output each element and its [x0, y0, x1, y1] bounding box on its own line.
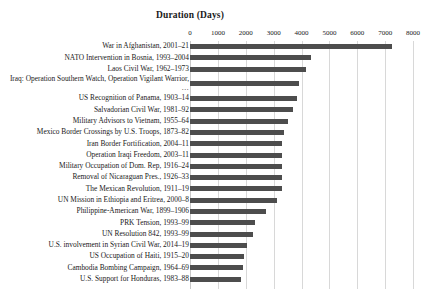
- category-label: NATO Intervention in Bosnia, 1993–2004: [3, 54, 189, 62]
- bar-track: [190, 115, 413, 126]
- chart-row: PRK Tension, 1993–99: [0, 217, 437, 228]
- bar[interactable]: [190, 175, 282, 180]
- bar[interactable]: [190, 198, 277, 203]
- category-label: Mexico Border Crossings by U.S. Troops, …: [3, 128, 189, 136]
- bar[interactable]: [190, 55, 311, 60]
- bar[interactable]: [190, 96, 297, 101]
- category-label: The Mexican Revolution, 1911–19: [3, 185, 189, 193]
- bar[interactable]: [190, 119, 288, 124]
- chart-title: Duration (Days): [0, 10, 380, 21]
- chart-row: Cambodia Bombing Campaign, 1964–69: [0, 262, 437, 273]
- bar-track: [190, 161, 413, 172]
- category-label: U.S. involvement in Syrian Civil War, 20…: [3, 241, 189, 249]
- category-label: PRK Tension, 1993–99: [3, 219, 189, 227]
- chart-row: U.S. Support for Honduras, 1983–88: [0, 274, 437, 285]
- bar-track: [190, 172, 413, 183]
- category-label: US Occupation of Haiti, 1915–20: [3, 252, 189, 260]
- chart-row: UN Mission in Ethiopia and Eritrea, 2000…: [0, 195, 437, 206]
- category-label: Operation Iraqi Freedom, 2003–11: [3, 151, 189, 159]
- chart-row: Removal of Nicaraguan Pres., 1926–33: [0, 172, 437, 183]
- category-label: Military Advisors to Vietnam, 1955–64: [3, 117, 189, 125]
- category-label: Military Occupation of Dom. Rep, 1916–24: [3, 162, 189, 170]
- bar-track: [190, 274, 413, 285]
- bar[interactable]: [190, 67, 306, 72]
- chart-row: U.S. involvement in Syrian Civil War, 20…: [0, 240, 437, 251]
- chart-row: Military Occupation of Dom. Rep, 1916–24: [0, 161, 437, 172]
- category-label: War in Afghanistan, 2001–21: [3, 42, 189, 50]
- bar-track: [190, 206, 413, 217]
- bar[interactable]: [190, 81, 299, 86]
- category-label: Iraq: Operation Southern Watch, Operatio…: [3, 75, 189, 92]
- chart-row: UN Resolution 842, 1993–99: [0, 228, 437, 239]
- bar-track: [190, 228, 413, 239]
- x-tick-label-7000: 7000: [378, 28, 392, 38]
- category-label: Salvadorian Civil War, 1981–92: [3, 106, 189, 114]
- bar[interactable]: [190, 277, 241, 282]
- chart-row: Laos Civil War, 1962–1973: [0, 64, 437, 75]
- chart-row: Mexico Border Crossings by U.S. Troops, …: [0, 127, 437, 138]
- x-tick-label-6000: 6000: [350, 28, 364, 38]
- bar-track: [190, 64, 413, 75]
- category-label: Laos Civil War, 1962–1973: [3, 65, 189, 73]
- x-tick-label-3000: 3000: [267, 28, 281, 38]
- x-tick-label-2000: 2000: [239, 28, 253, 38]
- bar[interactable]: [190, 232, 253, 237]
- bar[interactable]: [190, 220, 255, 225]
- bar-track: [190, 149, 413, 160]
- category-label: Cambodia Bombing Campaign, 1964–69: [3, 264, 189, 272]
- bar[interactable]: [190, 44, 392, 49]
- category-label: UN Mission in Ethiopia and Eritrea, 2000…: [3, 196, 189, 204]
- chart-row: Salvadorian Civil War, 1981–92: [0, 104, 437, 115]
- bar-track: [190, 104, 413, 115]
- bar[interactable]: [190, 209, 266, 214]
- category-label: Removal of Nicaraguan Pres., 1926–33: [3, 173, 189, 181]
- category-label: UN Resolution 842, 1993–99: [3, 230, 189, 238]
- bar[interactable]: [190, 141, 282, 146]
- x-tick-label-1000: 1000: [211, 28, 225, 38]
- chart-row: Iraq: Operation Southern Watch, Operatio…: [0, 75, 437, 93]
- x-tick-label-5000: 5000: [322, 28, 336, 38]
- bar[interactable]: [190, 153, 282, 158]
- category-label: Philippine-American War, 1899–1906: [3, 207, 189, 215]
- bar[interactable]: [190, 186, 282, 191]
- chart-row: US Occupation of Haiti, 1915–20: [0, 251, 437, 262]
- x-axis-tick-labels: 010002000300040005000600070008000: [0, 28, 437, 40]
- bar-track: [190, 183, 413, 194]
- chart-row: Operation Iraqi Freedom, 2003–11: [0, 149, 437, 160]
- bar-rows: War in Afghanistan, 2001–21NATO Interven…: [0, 41, 437, 285]
- bar[interactable]: [190, 164, 282, 169]
- bar-track: [190, 217, 413, 228]
- chart-row: Iran Border Fortification, 2004–11: [0, 138, 437, 149]
- bar[interactable]: [190, 107, 293, 112]
- bar-track: [190, 127, 413, 138]
- category-label: Iran Border Fortification, 2004–11: [3, 140, 189, 148]
- bar[interactable]: [190, 130, 284, 135]
- bar-track: [190, 52, 413, 63]
- chart-row: Philippine-American War, 1899–1906: [0, 206, 437, 217]
- chart-row: War in Afghanistan, 2001–21: [0, 41, 437, 52]
- bar-chart: Duration (Days) 010002000300040005000600…: [0, 0, 437, 297]
- x-tick-label-8000: 8000: [406, 28, 420, 38]
- chart-row: Military Advisors to Vietnam, 1955–64: [0, 115, 437, 126]
- bar-track: [190, 262, 413, 273]
- chart-row: US Recognition of Panama, 1903–14: [0, 93, 437, 104]
- chart-row: NATO Intervention in Bosnia, 1993–2004: [0, 52, 437, 63]
- bar-track: [190, 93, 413, 104]
- bar-track: [190, 138, 413, 149]
- bar[interactable]: [190, 243, 247, 248]
- bar-track: [190, 41, 413, 52]
- category-label: US Recognition of Panama, 1903–14: [3, 94, 189, 102]
- bar-track: [190, 75, 413, 93]
- chart-row: The Mexican Revolution, 1911–19: [0, 183, 437, 194]
- bar-track: [190, 240, 413, 251]
- x-tick-label-0: 0: [188, 28, 192, 38]
- bar[interactable]: [190, 265, 243, 270]
- bar-track: [190, 251, 413, 262]
- bar-track: [190, 195, 413, 206]
- category-label: U.S. Support for Honduras, 1983–88: [3, 275, 189, 283]
- x-tick-label-4000: 4000: [295, 28, 309, 38]
- bar[interactable]: [190, 254, 244, 259]
